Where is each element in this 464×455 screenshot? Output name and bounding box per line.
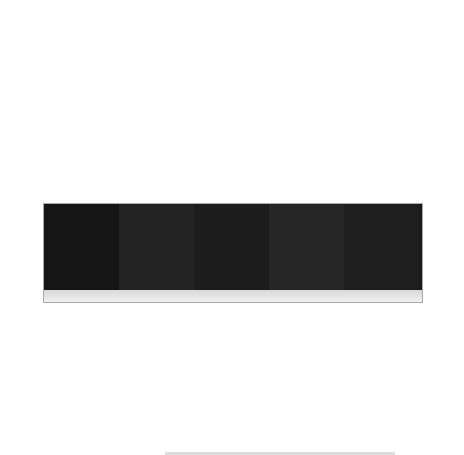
root-images	[43, 310, 421, 428]
bar-charts	[0, 0, 464, 200]
plant-photo	[43, 203, 423, 303]
